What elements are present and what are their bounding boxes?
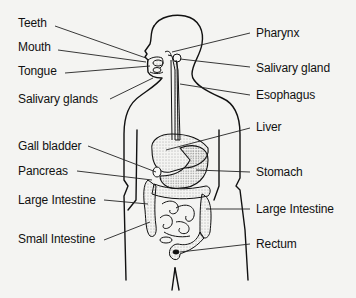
label-large-intestine-left: Large Intestine xyxy=(18,193,96,207)
esophagus-tube xyxy=(168,55,180,140)
large-intestine-shape xyxy=(144,180,211,260)
label-mouth: Mouth xyxy=(18,40,51,54)
mouth-region xyxy=(148,57,163,74)
label-esophagus: Esophagus xyxy=(256,88,315,102)
label-stomach: Stomach xyxy=(256,165,303,179)
label-pancreas: Pancreas xyxy=(18,164,68,178)
small-intestine-shape xyxy=(160,201,194,243)
label-large-intestine-right: Large Intestine xyxy=(256,202,334,216)
label-salivary-glands: Salivary glands xyxy=(18,92,98,106)
label-gall-bladder: Gall bladder xyxy=(18,139,82,153)
label-small-intestine: Small Intestine xyxy=(18,232,95,246)
label-tongue: Tongue xyxy=(18,64,57,78)
label-pharynx: Pharynx xyxy=(256,26,299,40)
label-rectum: Rectum xyxy=(256,237,297,251)
gall-bladder-shape xyxy=(153,167,161,177)
label-teeth: Teeth xyxy=(18,16,47,30)
label-liver: Liver xyxy=(256,120,282,134)
rectum-shape xyxy=(173,250,179,254)
label-salivary-gland: Salivary gland xyxy=(256,61,330,75)
